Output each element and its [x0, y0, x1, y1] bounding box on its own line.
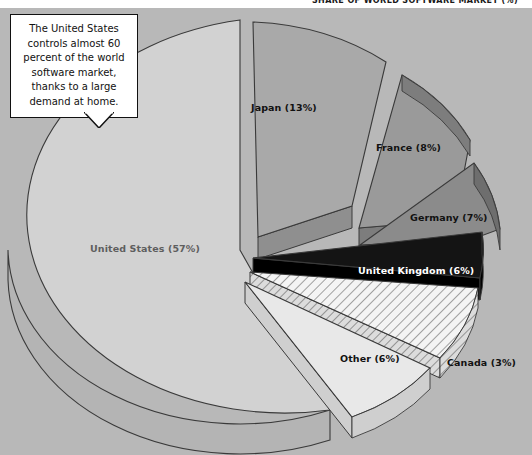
callout-tail-icon — [84, 112, 114, 128]
label-canada: Canada (3%) — [447, 357, 516, 368]
label-japan: Japan (13%) — [251, 102, 317, 113]
label-united-states: United States (57%) — [90, 243, 200, 254]
callout-text: The United States controls almost 60 per… — [17, 22, 131, 109]
label-united-kingdom: United Kingdom (6%) — [358, 265, 474, 276]
pie-chart-figure: SHARE OF WORLD SOFTWARE MARKET (%) — [0, 0, 532, 455]
label-other: Other (6%) — [340, 353, 400, 364]
label-germany: Germany (7%) — [410, 212, 488, 223]
callout-box: The United States controls almost 60 per… — [10, 14, 138, 118]
label-france: France (8%) — [376, 142, 441, 153]
chart-title: SHARE OF WORLD SOFTWARE MARKET (%) — [300, 0, 530, 5]
